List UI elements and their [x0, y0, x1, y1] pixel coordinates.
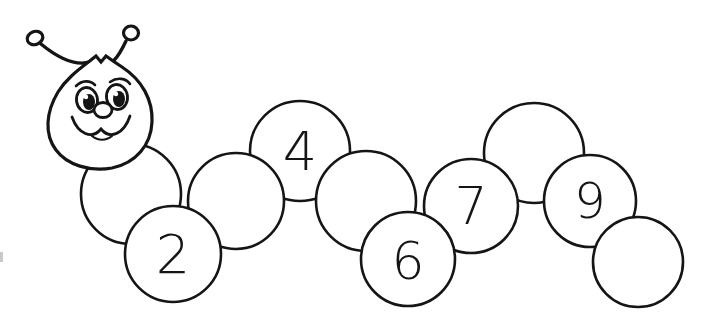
left-eye-glint	[84, 95, 88, 99]
segment-2-number: 2	[156, 223, 190, 286]
segment-7-number: 7	[454, 176, 487, 236]
nose	[94, 103, 112, 118]
caterpillar-head-group[interactable]	[25, 26, 152, 169]
page-edge-artifact	[0, 252, 3, 262]
body-segment-10[interactable]	[593, 217, 683, 307]
right-eye-glint	[114, 92, 118, 96]
segment-6-number: 6	[391, 231, 424, 291]
right-antenna-tip-icon	[124, 26, 139, 40]
coloring-page-canvas: 2 4 6 7 9	[0, 0, 709, 333]
segment-4-number: 4	[283, 120, 317, 183]
segment-9-number: 9	[574, 172, 606, 230]
left-antenna-icon	[41, 44, 90, 63]
caterpillar-illustration: 2 4 6 7 9	[0, 0, 709, 333]
